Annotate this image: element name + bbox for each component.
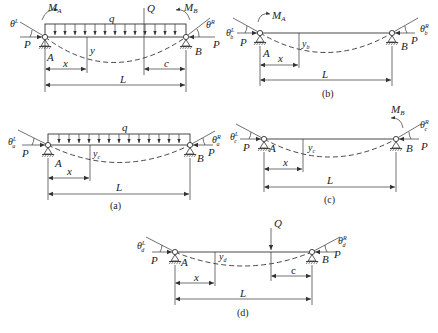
svg-text:L: L [115, 181, 122, 193]
svg-text:L: L [326, 174, 333, 186]
svg-text:θRb: θRb [420, 23, 429, 36]
svg-text:θR: θR [206, 19, 215, 30]
caption-d: (d) [237, 307, 249, 319]
svg-text:x: x [282, 156, 288, 168]
svg-text:c: c [164, 57, 169, 69]
svg-text:P: P [242, 141, 250, 153]
svg-text:P: P [333, 248, 341, 260]
point-load-label: Q [147, 2, 155, 14]
svg-text:θLc: θLc [230, 131, 239, 144]
svg-text:P: P [207, 146, 215, 158]
svg-text:P: P [23, 38, 31, 50]
beam-figure: MA MB q Q θL θR P P A B y x c L MA θLb θ… [0, 0, 438, 333]
load-label: q [109, 12, 115, 24]
svg-text:yb: yb [301, 38, 309, 50]
svg-text:L: L [119, 73, 126, 85]
caption-c: (c) [324, 194, 335, 206]
svg-text:x: x [66, 165, 72, 177]
caption-a: (a) [110, 200, 121, 212]
deflection-curve [264, 139, 396, 157]
panel-a: q θLa θRa P P A B yc x L (a) [8, 121, 221, 212]
svg-text:P: P [420, 140, 428, 152]
svg-text:A: A [262, 47, 270, 59]
svg-text:P: P [150, 254, 158, 266]
panel-b: MA θLb θRb P P A B yb x L (b) [226, 9, 429, 100]
svg-text:Q: Q [274, 217, 282, 229]
svg-text:MB: MB [390, 103, 405, 117]
svg-text:x: x [193, 271, 199, 283]
svg-text:B: B [197, 152, 204, 164]
svg-text:B: B [401, 40, 408, 52]
svg-text:MB: MB [183, 1, 198, 15]
deflection-curve [260, 33, 392, 53]
svg-text:x: x [62, 57, 68, 69]
panel-main: MA MB q Q θL θR P P A B y x c L [10, 1, 220, 92]
svg-text:θRc: θRc [420, 119, 429, 132]
svg-text:c: c [291, 264, 296, 276]
svg-text:A: A [268, 142, 276, 154]
svg-text:yd: yd [218, 251, 227, 263]
svg-text:yc: yc [92, 148, 100, 160]
svg-text:P: P [239, 36, 247, 48]
svg-text:θL: θL [10, 18, 19, 29]
svg-text:θLd: θLd [137, 240, 146, 253]
panel-c: MB θLc θRc P P A B yc x L (c) [230, 103, 429, 206]
panel-d: Q θLd θRd P P A B yd x c L (d) [137, 217, 347, 319]
svg-text:yc: yc [307, 142, 315, 154]
svg-text:θRd: θRd [338, 235, 347, 248]
svg-text:A: A [180, 256, 188, 268]
svg-text:B: B [322, 253, 329, 265]
svg-text:A: A [46, 51, 54, 63]
svg-text:B: B [195, 45, 202, 57]
deflection-curve [48, 145, 190, 163]
svg-text:P: P [410, 34, 418, 46]
svg-text:x: x [277, 52, 283, 64]
svg-text:y: y [89, 44, 95, 56]
svg-text:A: A [54, 157, 62, 169]
caption-b: (b) [322, 88, 334, 100]
svg-text:P: P [21, 147, 29, 159]
svg-text:q: q [122, 121, 128, 133]
distributed-load-arrows [59, 134, 179, 143]
svg-text:L: L [321, 68, 328, 80]
svg-text:θLb: θLb [226, 27, 235, 40]
svg-text:B: B [406, 142, 413, 154]
svg-text:MA: MA [271, 9, 286, 23]
svg-text:L: L [239, 287, 246, 299]
distributed-load-arrows [55, 24, 175, 35]
svg-text:MA: MA [47, 1, 62, 15]
svg-text:θLa: θLa [8, 136, 17, 149]
svg-text:P: P [212, 38, 220, 50]
